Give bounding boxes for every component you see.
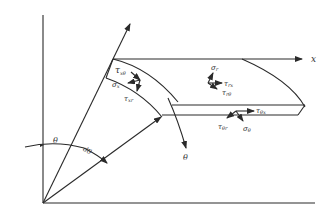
tau-xr-arrow [137,80,140,91]
radial-line-theta-dtheta [43,117,161,203]
outer-curve-right [242,59,305,107]
x-axis-label: x [311,54,316,64]
stress-element-diagram: x θ θ dθ τxθ σx τxr σr τrx τrθ τθx τθr σ… [0,0,330,219]
slab-end-edge [298,105,305,115]
tau-r-theta-label: τrθ [222,89,231,97]
theta-angle-label: θ [53,136,58,145]
tau-xr-label: τxr [124,95,134,103]
sigma-r-label: σr [211,64,219,72]
dtheta-angle-label: dθ [81,145,93,157]
sigma-x-arrow [128,80,140,83]
element-upper-curve [113,59,178,102]
sigma-r-arrow [208,73,213,83]
sigma-theta-arrow [236,111,243,121]
tau-x-theta-label: τxθ [115,65,126,76]
tau-r-theta-arrow [208,83,217,89]
tau-x-theta-arrow [131,72,140,80]
element-end-face [106,59,113,78]
theta-direction-label: θ [183,153,188,162]
sigma-theta-label: σθ [243,125,251,133]
tau-rx-label: τrx [224,80,233,88]
tau-theta-x-label: τθx [256,107,266,115]
radial-line-theta [43,24,130,203]
sigma-x-label: σx [112,81,120,89]
tau-theta-r-label: τθr [218,123,228,131]
